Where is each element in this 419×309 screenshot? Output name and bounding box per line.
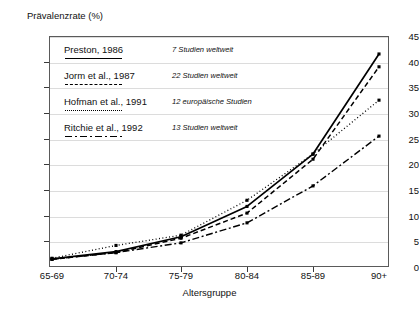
legend-note: 22 Studien weltweit	[172, 71, 237, 80]
legend-label: Preston, 1986	[64, 44, 123, 55]
data-point-marker	[311, 158, 314, 161]
legend-note: 12 europäische Studien	[172, 97, 252, 106]
series-line-dashdot	[52, 136, 379, 259]
data-point-marker	[50, 258, 53, 261]
legend-note: 13 Studien weltweit	[172, 123, 237, 132]
data-point-marker	[311, 153, 314, 156]
x-axis-label: Altersgruppe	[0, 287, 419, 298]
legend-label: Hofman et al., 1991	[64, 96, 147, 107]
legend-item-jorm: Jorm et al., 1987 22 Studien weltweit	[64, 70, 300, 96]
data-point-marker	[114, 244, 117, 247]
chart-container: Prävalenzrate (%) 45 40 35 30 25 20 15 1…	[0, 0, 419, 309]
legend-item-preston: Preston, 1986 7 Studien weltweit	[64, 44, 300, 70]
legend-swatch-dotted	[65, 110, 122, 111]
legend-note: 7 Studien weltweit	[172, 45, 233, 54]
legend-swatch-dashed	[65, 84, 122, 85]
data-point-marker	[377, 135, 380, 138]
data-point-marker	[179, 237, 182, 240]
legend-swatch-solid	[65, 58, 122, 59]
data-point-marker	[179, 234, 182, 237]
legend-label: Jorm et al., 1987	[64, 70, 135, 81]
legend-item-ritchie: Ritchie et al., 1992 13 Studien weltweit	[64, 122, 300, 148]
legend-item-hofman: Hofman et al., 1991 12 europäische Studi…	[64, 96, 300, 122]
data-point-marker	[245, 212, 248, 215]
data-point-marker	[377, 52, 380, 55]
data-point-marker	[245, 205, 248, 208]
data-point-marker	[377, 99, 380, 102]
data-point-marker	[245, 199, 248, 202]
data-point-marker	[179, 241, 182, 244]
legend: Preston, 1986 7 Studien weltweit Jorm et…	[64, 44, 300, 148]
data-point-marker	[245, 221, 248, 224]
legend-swatch-dashdot	[65, 136, 122, 137]
data-point-marker	[377, 65, 380, 68]
data-point-marker	[114, 251, 117, 254]
data-point-marker	[311, 184, 314, 187]
legend-label: Ritchie et al., 1992	[64, 122, 143, 133]
